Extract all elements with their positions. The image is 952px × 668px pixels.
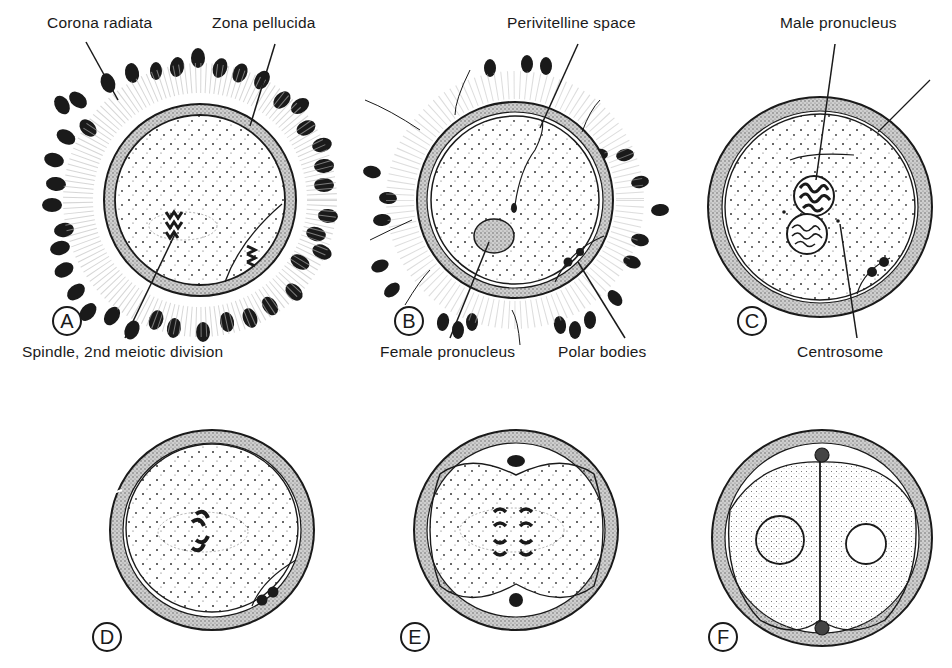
panel-letter-b: B [394, 306, 424, 336]
female-pronucleus [474, 219, 514, 253]
label-polar-bodies: Polar bodies [558, 343, 647, 361]
panel-b [362, 44, 669, 345]
label-perivitelline-space: Perivitelline space [507, 14, 636, 32]
nucleus-left [756, 516, 804, 564]
panel-letter-f: F [708, 622, 738, 652]
fertilization-diagram [0, 0, 952, 668]
panel-letter-a: A [52, 306, 82, 336]
centrosome [782, 210, 786, 214]
female-pronucleus [787, 214, 827, 254]
panel-e [414, 430, 618, 630]
polar-body [815, 448, 829, 462]
label-male-pronucleus: Male pronucleus [780, 14, 897, 32]
polar-body [564, 258, 573, 267]
cleaving-cytoplasm [430, 463, 603, 597]
centrosome [836, 219, 840, 223]
polar-body [867, 267, 877, 277]
polar-body [576, 248, 584, 256]
polar-body [257, 595, 268, 606]
label-spindle: Spindle, 2nd meiotic division [22, 343, 223, 361]
label-zona-pellucida: Zona pellucida [212, 14, 316, 32]
panel-a [42, 42, 339, 342]
panel-d [110, 430, 314, 630]
polar-body [879, 257, 889, 267]
panel-letter-e: E [400, 622, 430, 652]
polar-body [815, 621, 829, 635]
polar-body [507, 455, 525, 467]
label-centrosome: Centrosome [797, 343, 883, 361]
label-female-pronucleus: Female pronucleus [380, 343, 515, 361]
oocyte-cytoplasm [431, 116, 599, 284]
polar-body [509, 593, 523, 607]
polar-body [268, 587, 279, 598]
panel-letter-c: C [737, 306, 767, 336]
panel-c [708, 44, 932, 338]
label-corona-radiata: Corona radiata [47, 14, 152, 32]
panel-f [712, 430, 932, 646]
panel-letter-d: D [92, 622, 122, 652]
nucleus-right [846, 524, 886, 564]
